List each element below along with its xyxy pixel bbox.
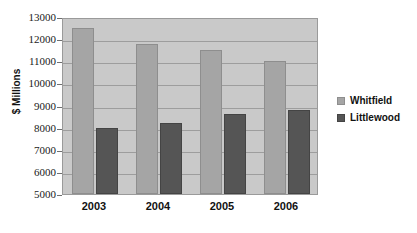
- bar: [96, 128, 118, 194]
- bar-chart: $ Millions 13000120001100010000900080007…: [0, 0, 417, 233]
- legend-swatch-icon: [337, 97, 345, 105]
- bar: [224, 114, 246, 194]
- bar: [288, 110, 310, 194]
- gridline: [63, 41, 317, 42]
- bar: [264, 61, 286, 194]
- y-tick-mark: [57, 84, 62, 85]
- y-tick-label: 8000: [10, 123, 56, 134]
- plot-area: [62, 18, 318, 195]
- y-tick-label: 12000: [10, 34, 56, 45]
- y-tick-mark: [57, 18, 62, 19]
- y-tick-label: 6000: [10, 167, 56, 178]
- y-tick-label: 11000: [10, 56, 56, 67]
- legend-label: Whitfield: [350, 95, 392, 106]
- legend: Whitfield Littlewood: [337, 93, 400, 127]
- bar: [136, 44, 158, 194]
- legend-item-whitfield[interactable]: Whitfield: [337, 93, 400, 108]
- y-tick-label: 13000: [10, 12, 56, 23]
- bar: [160, 123, 182, 194]
- y-tick-label: 5000: [10, 189, 56, 200]
- y-tick-mark: [57, 195, 62, 196]
- bar: [200, 50, 222, 194]
- y-tick-mark: [57, 173, 62, 174]
- legend-item-littlewood[interactable]: Littlewood: [337, 110, 400, 125]
- y-tick-label: 7000: [10, 145, 56, 156]
- y-tick-label: 10000: [10, 78, 56, 89]
- x-tick-label: 2003: [62, 200, 126, 212]
- y-tick-mark: [57, 40, 62, 41]
- y-tick-mark: [57, 129, 62, 130]
- legend-label: Littlewood: [350, 112, 400, 123]
- y-tick-mark: [57, 107, 62, 108]
- bar: [72, 28, 94, 194]
- legend-swatch-icon: [337, 114, 345, 122]
- x-tick-label: 2004: [126, 200, 190, 212]
- y-tick-mark: [57, 62, 62, 63]
- x-tick-label: 2005: [190, 200, 254, 212]
- y-tick-mark: [57, 151, 62, 152]
- x-tick-label: 2006: [254, 200, 318, 212]
- y-tick-label: 9000: [10, 101, 56, 112]
